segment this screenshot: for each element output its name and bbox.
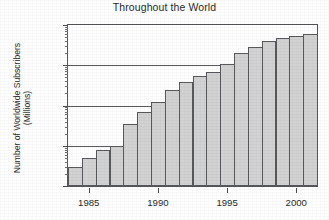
- x-axis-tick: [227, 188, 228, 193]
- bar: [165, 90, 180, 186]
- x-axis-tick-label: 1985: [63, 197, 115, 208]
- bar: [206, 72, 221, 187]
- bar: [289, 36, 304, 186]
- x-axis-tick-label: 1990: [132, 197, 184, 208]
- plot-area: 0.11101001000 1985199019952000: [67, 24, 318, 187]
- x-axis-tick: [89, 188, 90, 193]
- bar: [303, 34, 318, 186]
- x-axis-tick: [158, 188, 159, 193]
- bar: [123, 124, 138, 186]
- bar: [68, 167, 83, 186]
- y-axis-title: Number of Worldwide Subscribers (Million…: [12, 23, 36, 193]
- bar: [262, 41, 277, 186]
- x-axis-tick: [296, 188, 297, 193]
- chart-figure: Throughout the World Number of Worldwide…: [0, 0, 329, 220]
- bar: [151, 102, 166, 186]
- bar: [234, 53, 249, 186]
- bar: [220, 64, 235, 186]
- y-axis-title-line-1: Number of Worldwide Subscribers: [12, 23, 22, 193]
- chart-title: Throughout the World: [0, 1, 329, 13]
- bar: [193, 76, 208, 186]
- bar: [137, 112, 152, 186]
- bar: [96, 150, 111, 186]
- x-axis-tick-label: 2000: [270, 197, 322, 208]
- bar: [276, 38, 291, 186]
- bar: [82, 158, 97, 186]
- bar-series: [68, 25, 317, 186]
- bar: [179, 82, 194, 186]
- x-axis-tick-label: 1995: [201, 197, 253, 208]
- bar: [248, 47, 263, 186]
- bar: [110, 146, 125, 186]
- y-axis-title-line-2: (Millions): [22, 23, 32, 193]
- y-axis-tick: [63, 186, 68, 187]
